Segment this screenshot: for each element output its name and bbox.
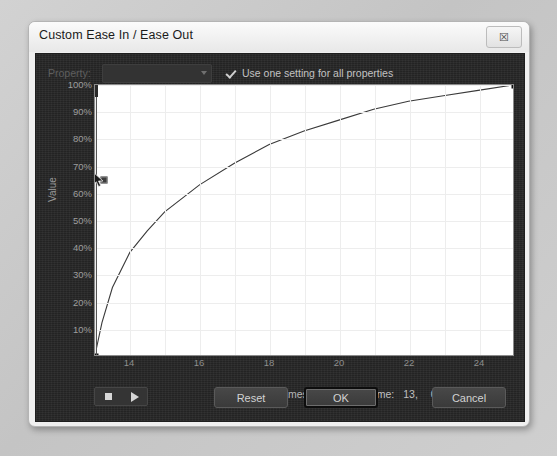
x-axis-tick-labels: 141618202224 (94, 357, 514, 373)
grid-line-vertical (445, 85, 446, 355)
grid-line-horizontal (95, 330, 513, 331)
x-tick-label: 22 (404, 357, 415, 368)
grid-line-vertical (130, 85, 131, 355)
dialog-title-bar: Custom Ease In / Ease Out ☒ (29, 22, 529, 52)
use-one-setting-label: Use one setting for all properties (242, 67, 393, 79)
cancel-button[interactable]: Cancel (432, 387, 506, 408)
y-tick-label: 20% (73, 296, 92, 307)
y-tick-label: 60% (73, 187, 92, 198)
y-tick-label: 80% (73, 133, 92, 144)
grid-line-vertical (305, 85, 306, 355)
playhead[interactable] (96, 85, 97, 355)
close-icon: ☒ (487, 27, 521, 47)
grid-line-horizontal (95, 248, 513, 249)
x-tick-label: 18 (264, 357, 275, 368)
close-button[interactable]: ☒ (486, 26, 522, 48)
action-buttons-row: Reset OK Cancel (36, 387, 524, 411)
grid-line-vertical (200, 85, 201, 355)
end-point[interactable] (512, 84, 515, 89)
chevron-down-icon (201, 71, 207, 75)
y-tick-label: 100% (68, 79, 92, 90)
dialog-title: Custom Ease In / Ease Out (39, 28, 193, 42)
y-tick-label: 70% (73, 160, 92, 171)
x-tick-label: 20 (334, 357, 345, 368)
options-row: Property: Use one setting for all proper… (36, 60, 524, 86)
x-tick-label: 14 (124, 357, 135, 368)
grid-line-horizontal (95, 194, 513, 195)
y-tick-label: 50% (73, 215, 92, 226)
reset-button[interactable]: Reset (214, 387, 288, 408)
custom-ease-dialog: Custom Ease In / Ease Out ☒ Property: Us… (28, 21, 530, 427)
grid-line-vertical (270, 85, 271, 355)
y-tick-label: 30% (73, 269, 92, 280)
checkmark-icon (226, 68, 237, 79)
grid-line-vertical (410, 85, 411, 355)
grid-line-horizontal (95, 221, 513, 222)
property-select[interactable] (102, 64, 212, 83)
use-one-setting-checkbox-row[interactable]: Use one setting for all properties (226, 65, 393, 81)
y-axis-tick-labels: 100%90%80%70%60%50%40%30%20%10% (58, 84, 92, 356)
ease-curve-line (95, 85, 513, 355)
grid-line-horizontal (95, 139, 513, 140)
grid-line-vertical (340, 85, 341, 355)
grid-line-vertical (375, 85, 376, 355)
grid-line-horizontal (95, 275, 513, 276)
grid-line-horizontal (95, 112, 513, 113)
x-tick-label: 16 (194, 357, 205, 368)
grid-line-vertical (235, 85, 236, 355)
property-label: Property: (48, 67, 91, 79)
mid-handle[interactable] (100, 177, 107, 184)
grid-line-horizontal (95, 85, 513, 86)
y-tick-label: 40% (73, 242, 92, 253)
ok-button[interactable]: OK (304, 387, 378, 408)
dialog-body-panel: Property: Use one setting for all proper… (35, 53, 525, 422)
y-tick-label: 90% (73, 106, 92, 117)
ease-curve-plot[interactable] (94, 84, 514, 356)
y-tick-label: 10% (73, 323, 92, 334)
grid-line-horizontal (95, 167, 513, 168)
grid-line-vertical (480, 85, 481, 355)
grid-line-vertical (165, 85, 166, 355)
value-axis-title: Value (47, 177, 58, 202)
playhead-handle[interactable] (95, 85, 98, 97)
grid-line-horizontal (95, 303, 513, 304)
graph-region: Value 100%90%80%70%60%50%40%30%20%10% 14… (48, 84, 514, 384)
x-tick-label: 24 (474, 357, 485, 368)
